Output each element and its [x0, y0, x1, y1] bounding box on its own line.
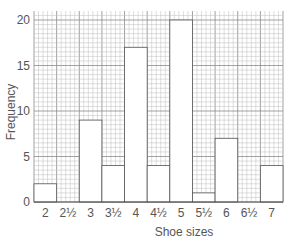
x-tick-label: 3 [87, 206, 94, 220]
y-tick-label: 20 [17, 13, 31, 27]
x-tick-label: 6 [223, 206, 230, 220]
bar-4 [125, 47, 148, 202]
histogram-chart: 05101520 22½33½44½55½66½7 Shoe sizes Fre… [0, 0, 296, 246]
x-tick-label: 3½ [105, 206, 122, 220]
x-tick-label: 6½ [241, 206, 258, 220]
x-tick-label: 4 [133, 206, 140, 220]
x-axis-ticks: 22½33½44½55½66½7 [42, 206, 275, 220]
y-tick-label: 15 [17, 59, 31, 73]
x-tick-label: 2½ [60, 206, 77, 220]
y-axis-label: Frequency [4, 84, 18, 141]
bar-3½ [102, 166, 125, 202]
x-axis-label: Shoe sizes [155, 225, 214, 239]
bar-2 [34, 184, 57, 202]
bar-4½ [147, 166, 170, 202]
x-tick-label: 2 [42, 206, 49, 220]
x-tick-label: 4½ [150, 206, 167, 220]
bar-7 [260, 166, 283, 202]
bar-6 [215, 138, 238, 202]
y-tick-label: 5 [23, 150, 30, 164]
y-tick-label: 0 [23, 195, 30, 209]
bar-5 [170, 20, 193, 202]
x-tick-label: 5 [178, 206, 185, 220]
x-tick-label: 5½ [195, 206, 212, 220]
bar-5½ [192, 193, 215, 202]
y-tick-label: 10 [17, 104, 31, 118]
bar-3 [79, 120, 102, 202]
y-axis-ticks: 05101520 [17, 13, 31, 209]
x-tick-label: 7 [268, 206, 275, 220]
